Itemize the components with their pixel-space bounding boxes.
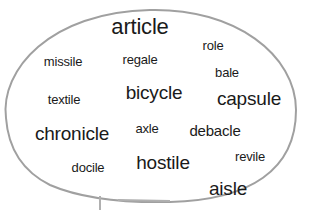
word-aisle: aisle xyxy=(209,178,247,200)
word-bale: bale xyxy=(215,65,239,80)
word-chronicle: chronicle xyxy=(35,123,109,145)
word-hostile: hostile xyxy=(136,152,190,174)
word-role: role xyxy=(203,38,224,53)
word-regale: regale xyxy=(123,52,158,67)
word-bicycle: bicycle xyxy=(126,82,183,104)
word-axle: axle xyxy=(135,121,158,136)
word-textile: textile xyxy=(48,92,81,107)
word-revile: revile xyxy=(235,149,265,164)
word-missile: missile xyxy=(44,54,82,69)
word-capsule: capsule xyxy=(217,88,281,110)
word-docile: docile xyxy=(72,160,105,175)
word-debacle: debacle xyxy=(189,122,240,139)
word-article: article xyxy=(111,14,168,40)
